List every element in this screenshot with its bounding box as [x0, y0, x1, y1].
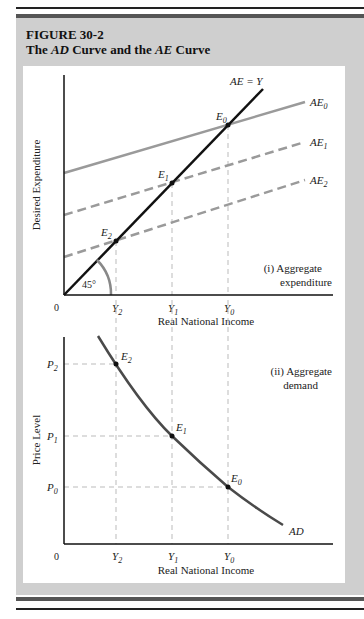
line-45-degree — [64, 89, 263, 295]
panel-i-label-1: (i) Aggregate — [264, 262, 322, 275]
panel-aggregate-demand: E2 E1 E0 AD P2 P1 P0 (ii) Aggregate dema… — [30, 300, 333, 576]
tick-p2: P2 — [46, 358, 58, 373]
angle-arc — [97, 260, 111, 295]
label-45-degree: 45° — [82, 279, 96, 290]
guides-ii — [64, 300, 228, 544]
point-e1 — [170, 181, 175, 186]
tick-y0-ii: Y0 — [224, 550, 234, 565]
label-e0: E0 — [215, 110, 227, 125]
label-ae-equals-y: AE = Y — [229, 75, 264, 87]
ae2-curve — [64, 180, 305, 257]
label-ae0: AE0 — [309, 96, 327, 111]
label-e2-ii: E2 — [120, 350, 132, 365]
ylabel-ii: Price Level — [30, 415, 42, 465]
label-ae2: AE2 — [309, 174, 327, 189]
tick-p0: P0 — [46, 481, 58, 496]
point-e0-ii — [226, 485, 231, 490]
origin-label-ii: 0 — [54, 551, 59, 562]
label-e1: E1 — [157, 168, 169, 183]
xlabel-ii: Real National Income — [158, 564, 255, 576]
label-e2: E2 — [100, 226, 112, 241]
label-ae1: AE1 — [309, 136, 327, 151]
tick-y2-i: Y2 — [112, 302, 122, 317]
label-ad: AD — [288, 525, 304, 537]
point-e2-ii — [114, 362, 119, 367]
panel-aggregate-expenditure: AE = Y AE0 AE1 AE2 E0 E1 E2 45° (i) Aggr… — [30, 75, 333, 327]
ylabel-i: Desired Expenditure — [30, 140, 42, 231]
label-e0-ii: E0 — [230, 472, 242, 487]
panel-ii-label-1: (ii) Aggregate — [271, 365, 333, 378]
label-e1-ii: E1 — [175, 421, 187, 436]
point-e1-ii — [170, 434, 175, 439]
diagram-canvas: AE = Y AE0 AE1 AE2 E0 E1 E2 45° (i) Aggr… — [0, 0, 364, 619]
panel-i-label-2: expenditure — [280, 276, 332, 288]
ae1-curve — [64, 142, 305, 215]
tick-p1: P1 — [46, 430, 58, 445]
ad-curve — [98, 336, 283, 525]
panel-ii-label-2: demand — [283, 379, 318, 391]
ae0-curve — [64, 102, 305, 173]
point-e2 — [114, 239, 119, 244]
origin-label-i: 0 — [54, 302, 59, 313]
tick-y2-ii: Y2 — [112, 550, 122, 565]
tick-y1-ii: Y1 — [168, 550, 178, 565]
